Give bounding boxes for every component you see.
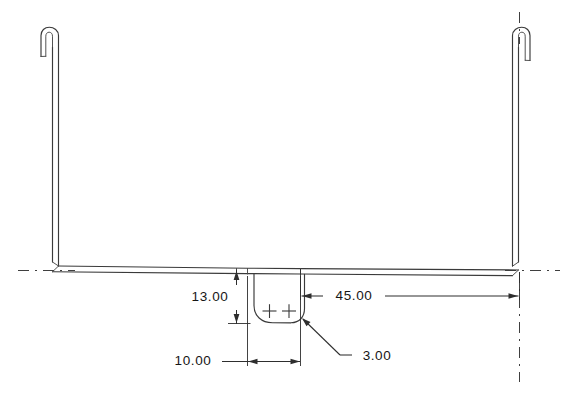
dimension-13: 13.00 [192,268,251,324]
dim-10-arrow-right [291,359,301,365]
dim-45-arrow-left [302,293,312,299]
hole-center-mark-left [263,304,277,318]
part-drawing-svg: 13.00 45.00 10.00 3.00 [0,0,574,402]
dimension-3: 3.00 [302,318,391,362]
hole-center-mark-right [282,304,296,318]
part-outline-group [41,27,530,323]
dim-13-label: 13.00 [192,289,229,304]
technical-drawing-canvas: 13.00 45.00 10.00 3.00 [0,0,574,402]
dim-45-label: 45.00 [336,288,373,303]
right-hook-inner-profile [519,32,526,60]
bottom-left-corner-closure [53,262,59,272]
dim-3-label: 3.00 [363,348,392,363]
bottom-web-top-edge [59,266,519,270]
centerlines-group [18,12,560,382]
dim-45-arrow-right [509,293,519,299]
dim-13-arrow-up [234,271,240,280]
hole-center-marks-group [263,304,297,318]
bottom-web-bottom-edge [53,272,513,276]
center-tab-outline [254,274,305,323]
dim-10-label: 10.00 [175,353,212,368]
dim-13-arrow-down [234,314,240,323]
left-hook-inner-profile [46,32,53,56]
left-hook-outer-profile [41,27,59,56]
dim-3-leader-slant [303,319,340,355]
dim-10-arrow-left [248,359,258,365]
bottom-right-corner-closure [513,262,519,276]
